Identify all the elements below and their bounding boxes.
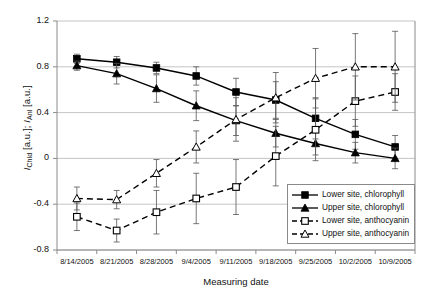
chart-legend: Lower site, chlorophyllUpper site, chlor… [287,184,415,244]
data-point-marker [153,65,160,72]
legend-label: Lower site, chlorophyll [322,190,404,198]
x-axis-title: Measuring date [57,276,415,287]
y-tick-label: 0 [9,152,49,162]
legend-item: Lower site, chlorophyll [291,188,409,201]
data-point-marker [192,102,200,109]
legend-item: Upper site, chlorophyll [291,201,409,214]
data-point-marker [113,196,121,203]
legend-key-open-square-icon [291,215,319,227]
data-point-marker [193,73,200,80]
y-tick-label: 0.4 [9,107,49,117]
legend-label: Upper site, chlorophyll [322,203,404,211]
y-tick-label: -0.8 [9,244,49,254]
legend-key-open-triangle-icon [291,228,319,240]
legend-key-filled-triangle-icon [291,202,319,214]
plot-area [0,0,433,301]
y-tick-label: -0.4 [9,198,49,208]
data-point-marker [74,213,81,220]
data-point-marker [193,195,200,202]
legend-item: Lower site, anthocyanin [291,214,409,227]
data-point-marker [113,227,120,234]
x-tick-label: 10/9/2005 [365,257,425,266]
legend-label: Upper site, anthocyanin [322,229,409,237]
data-point-marker [233,89,240,96]
data-point-marker [352,131,359,138]
data-point-marker [152,169,160,176]
data-point-marker [272,153,279,160]
data-point-marker [192,143,200,150]
chart-figure: IChld [a.u.]; IAnl [a.u.] 1.20.80.40-0.4… [0,0,433,301]
legend-key-filled-square-icon [291,189,319,201]
legend-item: Upper site, anthocyanin [291,227,409,240]
y-tick-label: 1.2 [9,15,49,25]
data-point-marker [302,217,309,224]
y-tick-label: 0.8 [9,61,49,71]
legend-label: Lower site, anthocyanin [322,216,409,224]
data-point-marker [312,126,319,133]
data-point-marker [73,62,81,69]
data-point-marker [233,184,240,191]
data-point-marker [302,191,309,198]
data-point-marker [153,209,160,216]
